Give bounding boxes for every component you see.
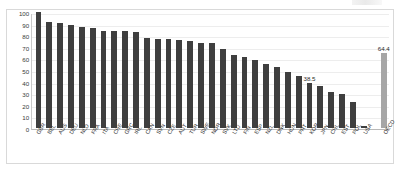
- bar-slot-swe[interactable]: [196, 14, 207, 128]
- bar-prt[interactable]: [296, 76, 302, 128]
- bar-slot-can[interactable]: [141, 14, 152, 128]
- bar-grc[interactable]: [122, 31, 128, 128]
- bar-slot-fra[interactable]: [87, 14, 98, 128]
- bar-can[interactable]: [144, 38, 150, 128]
- bar-series: 38.564.4: [33, 14, 389, 128]
- bar-est[interactable]: [339, 94, 345, 128]
- bar-hun[interactable]: [285, 72, 291, 128]
- bar-kor[interactable]: 38.5: [307, 83, 313, 128]
- bar-slot-jpn[interactable]: [315, 14, 326, 128]
- bar-slot-usa[interactable]: [358, 14, 369, 128]
- bar-slot-aus[interactable]: [55, 14, 66, 128]
- x-axis-tick-slot-svk: SVK: [216, 131, 227, 163]
- bar-slot-hun[interactable]: [282, 14, 293, 128]
- x-axis-tick-slot-usa: USA: [358, 131, 369, 163]
- x-axis-tick-slot-hun: HUN: [281, 131, 292, 163]
- y-axis-tick-80: 80: [7, 34, 29, 40]
- bar-fra[interactable]: [90, 28, 96, 128]
- y-axis-tick-60: 60: [7, 57, 29, 63]
- bar-slot-nld[interactable]: [76, 14, 87, 128]
- x-axis-tick-slot-ltu: LTU: [227, 131, 238, 163]
- bar-nzl[interactable]: [263, 64, 269, 128]
- chart-frame: 1009080706050403020100 38.564.4 GBRBELAU…: [6, 9, 394, 164]
- bar-slot-ita[interactable]: [98, 14, 109, 128]
- x-axis-tick-slot-bel: BEL: [42, 131, 53, 163]
- bar-slot-dnk[interactable]: [272, 14, 283, 128]
- x-axis-tick-slot-aut: AUT: [173, 131, 184, 163]
- x-axis-tick-slot-deu: DEU: [64, 131, 75, 163]
- bar-slot-prt[interactable]: [293, 14, 304, 128]
- bar-slot-che[interactable]: [109, 14, 120, 128]
- y-axis-tick-40: 40: [7, 81, 29, 87]
- bar-bel[interactable]: [46, 22, 52, 128]
- bar-slot-tur[interactable]: [185, 14, 196, 128]
- bar-svk[interactable]: [220, 49, 226, 128]
- bar-swe[interactable]: [198, 43, 204, 128]
- x-axis-tick-slot-fin: FIN: [238, 131, 249, 163]
- bar-nor[interactable]: [209, 43, 215, 128]
- bar-chl[interactable]: [328, 92, 334, 128]
- bar-slot-svn[interactable]: [152, 14, 163, 128]
- bar-slot-svk[interactable]: [217, 14, 228, 128]
- bar-deu[interactable]: [68, 25, 74, 128]
- x-axis-tick-slot-jpn: JPN: [314, 131, 325, 163]
- x-axis-tick-slot-oecd: OECD: [378, 131, 389, 163]
- top-edge-artifact: [352, 0, 382, 5]
- bar-nld[interactable]: [79, 27, 85, 129]
- bar-slot-est[interactable]: [337, 14, 348, 128]
- bar-slot-oecd[interactable]: 64.4: [378, 14, 389, 128]
- bar-cze[interactable]: [166, 39, 172, 128]
- bar-slot-fin[interactable]: [239, 14, 250, 128]
- bar-tur[interactable]: [187, 41, 193, 128]
- x-axis-tick-slot-fra: FRA: [85, 131, 96, 163]
- bar-slot-cze[interactable]: [163, 14, 174, 128]
- y-axis-tick-0: 0: [7, 127, 29, 133]
- x-axis-tick-slot-pol: POL: [347, 131, 358, 163]
- x-axis-tick-slot-prt: PRT: [292, 131, 303, 163]
- bar-slot-deu[interactable]: [66, 14, 77, 128]
- x-axis-tick-slot-svn: SVN: [151, 131, 162, 163]
- bar-slot-ltu[interactable]: [228, 14, 239, 128]
- x-axis-tick-slot-nzl: NZL: [260, 131, 271, 163]
- bar-fin[interactable]: [242, 57, 248, 128]
- y-axis-tick-50: 50: [7, 69, 29, 75]
- bar-ltu[interactable]: [231, 55, 237, 128]
- bar-slot-pol[interactable]: [347, 14, 358, 128]
- x-axis-tick-slot-nor: NOR: [205, 131, 216, 163]
- bar-svn[interactable]: [155, 39, 161, 128]
- x-axis-tick-slot-kor: KOR: [303, 131, 314, 163]
- bar-esp[interactable]: [252, 60, 258, 128]
- bar-slot-aut[interactable]: [174, 14, 185, 128]
- bar-ita[interactable]: [101, 31, 107, 128]
- bar-slot-esp[interactable]: [250, 14, 261, 128]
- bar-aus[interactable]: [57, 23, 63, 128]
- bar-group-gap: [369, 14, 378, 128]
- y-axis-tick-70: 70: [7, 46, 29, 52]
- bar-slot-nzl[interactable]: [261, 14, 272, 128]
- bar-aut[interactable]: [176, 40, 182, 128]
- bar-dnk[interactable]: [274, 67, 280, 128]
- y-axis-tick-90: 90: [7, 23, 29, 29]
- bar-slot-gbr[interactable]: [33, 14, 44, 128]
- x-axis-tick-slot-can: CAN: [140, 131, 151, 163]
- bar-che[interactable]: [111, 31, 117, 128]
- bar-slot-bel[interactable]: [44, 14, 55, 128]
- bar-irl[interactable]: [133, 32, 139, 128]
- x-axis-tick-slot-ita: ITA: [96, 131, 107, 163]
- bar-slot-grc[interactable]: [120, 14, 131, 128]
- bar-oecd[interactable]: 64.4: [381, 53, 387, 128]
- x-axis-tick-slot-nld: NLD: [75, 131, 86, 163]
- x-axis-tick-slot-irl: IRL: [129, 131, 140, 163]
- x-axis-tick-slot-aus: AUS: [53, 131, 64, 163]
- bar-slot-nor[interactable]: [207, 14, 218, 128]
- x-axis-tick-slot-che: CHE: [107, 131, 118, 163]
- x-axis-tick-slot-est: EST: [336, 131, 347, 163]
- bar-slot-irl[interactable]: [131, 14, 142, 128]
- bar-slot-kor[interactable]: 38.5: [304, 14, 315, 128]
- bar-gbr[interactable]: [36, 12, 42, 128]
- bar-slot-chl[interactable]: [326, 14, 337, 128]
- plot-area: 38.564.4: [31, 14, 389, 130]
- bar-jpn[interactable]: [317, 86, 323, 128]
- x-axis: GBRBELAUSDEUNLDFRAITACHEGRCIRLCANSVNCZEA…: [31, 131, 389, 163]
- x-axis-tick-slot-grc: GRC: [118, 131, 129, 163]
